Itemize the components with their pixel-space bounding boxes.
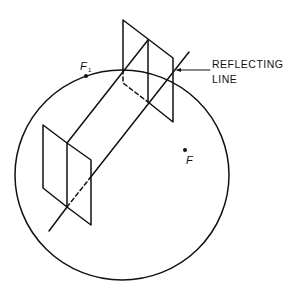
reflecting-line-solid-bottom <box>49 207 67 231</box>
focus-1-point <box>84 74 88 78</box>
focus-1-subscript: 1 <box>88 67 92 73</box>
upper-parallel-line <box>67 40 148 143</box>
reflecting-line-dashed <box>67 178 90 207</box>
focus-1-label: F <box>80 60 88 72</box>
reflection-diagram: REFLECTING LINE F 1 F <box>0 0 300 298</box>
reflecting-label-line2: LINE <box>212 73 237 85</box>
reflecting-label-line1: REFLECTING <box>212 58 284 70</box>
top-plane-hidden-edge <box>123 70 148 102</box>
circle <box>15 70 229 280</box>
diagram-canvas: REFLECTING LINE F 1 F <box>0 0 300 298</box>
lower-plane <box>43 125 91 225</box>
focus-point <box>183 148 187 152</box>
focus-label: F <box>186 154 194 166</box>
